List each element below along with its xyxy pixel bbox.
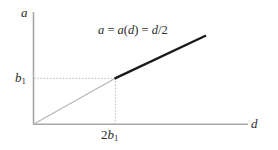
y-tick-subscript-text: 1 (22, 76, 26, 86)
x-axis-label: d (251, 117, 258, 130)
equation-denominator: 2 (161, 23, 167, 37)
x-tick-label-2b1: 2b1 (101, 128, 118, 143)
equation-equals-second: = (138, 23, 151, 37)
equation-equals-first: = (104, 23, 117, 37)
y-axis-label: a (21, 6, 28, 19)
function-line-thin-segment (34, 78, 116, 124)
function-line-thick-segment (115, 36, 207, 79)
equation-annotation: a = a(d) = d/2 (98, 24, 168, 37)
x-tick-subscript-text: 1 (114, 133, 118, 143)
y-axis-label-text: a (21, 5, 28, 20)
function-plot-figure: a d b1 2b1 a = a(d) = d/2 (0, 0, 278, 150)
y-tick-label-b1: b1 (15, 71, 26, 86)
x-axis-label-text: d (251, 116, 258, 131)
